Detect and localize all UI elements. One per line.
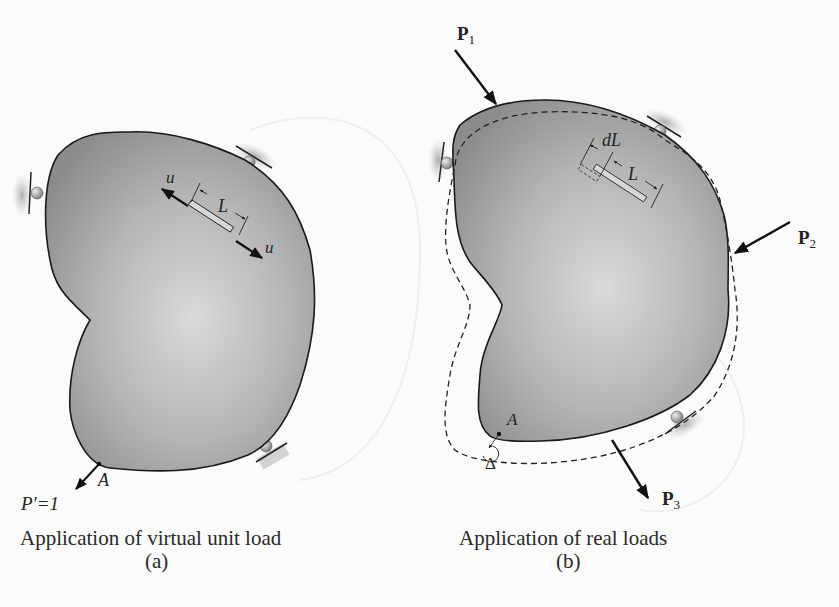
sublabel-a: (a)	[145, 549, 168, 573]
body-shape-b	[453, 100, 729, 441]
body-shape-a	[46, 132, 315, 471]
panel-a: u u L A P′=1 Application of virtual unit…	[12, 132, 315, 573]
caption-b: Application of real loads	[459, 526, 667, 550]
point-a-b-label: A	[506, 410, 518, 429]
caption-a: Application of virtual unit load	[20, 526, 282, 550]
virtual-work-diagram: u u L A P′=1 Application of virtual unit…	[0, 0, 839, 607]
roller-support-left-icon	[12, 172, 43, 217]
panel-b: P1 P2 P3 dL L A Δ Application of real lo…	[428, 23, 816, 573]
roller-support-bottom-b-icon	[661, 405, 709, 444]
displacement-label: Δ	[485, 454, 496, 473]
load-p1-arrow-icon	[455, 50, 496, 104]
dl-label: dL	[602, 130, 621, 150]
roller-support-left-b-icon	[428, 138, 453, 182]
load-p2-arrow-icon	[735, 222, 790, 253]
sublabel-b: (b)	[556, 549, 581, 573]
length-label-b: L	[627, 164, 638, 184]
load-p1-label: P1	[457, 23, 475, 47]
unit-load-arrow-icon	[76, 464, 99, 489]
unit-load-label: P′=1	[20, 493, 59, 514]
u-label-right: u	[265, 238, 274, 257]
load-p3-label: P3	[662, 488, 680, 512]
u-label-left: u	[166, 168, 175, 187]
point-a-label: A	[97, 470, 110, 490]
load-p2-label: P2	[798, 227, 816, 251]
length-label-a: L	[217, 196, 228, 216]
